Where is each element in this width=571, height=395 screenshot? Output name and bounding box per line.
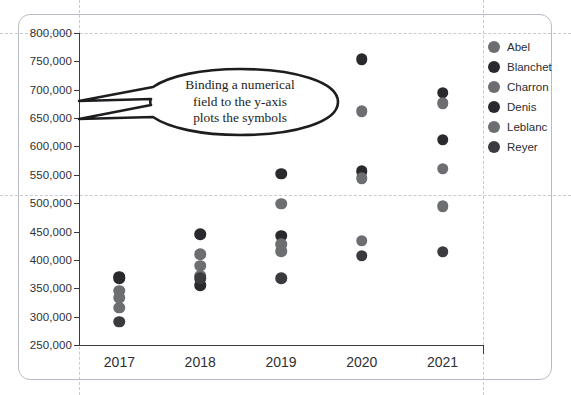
legend-swatch-icon <box>488 141 500 153</box>
callout-text: Binding a numerical field to the y-axis … <box>139 66 341 138</box>
x-axis-tick-label: 2020 <box>346 354 377 370</box>
legend-swatch-icon <box>488 121 500 133</box>
callout-line-3: plots the symbols <box>193 110 287 127</box>
y-axis-tick-label: 550,000 <box>30 169 79 181</box>
data-point[interactable] <box>194 229 206 241</box>
x-axis-tick-label: 2018 <box>185 354 216 370</box>
y-axis-tick-label: 700,000 <box>30 84 79 96</box>
legend-swatch-icon <box>488 101 500 113</box>
legend-swatch-icon <box>488 41 500 53</box>
legend-item-blanchet[interactable]: Blanchet <box>488 60 552 73</box>
legend-item-label: Charron <box>507 81 549 93</box>
data-point[interactable] <box>275 238 287 250</box>
y-axis-tick-label: 600,000 <box>30 140 79 152</box>
legend-item-label: Denis <box>507 101 536 113</box>
data-point[interactable] <box>194 248 206 260</box>
y-axis-tick-label: 250,000 <box>30 339 79 351</box>
legend-item-label: Blanchet <box>507 61 552 73</box>
chart-legend: AbelBlanchetCharronDenisLeblancReyer <box>488 40 552 153</box>
legend-item-abel[interactable]: Abel <box>488 40 552 53</box>
data-point[interactable] <box>356 106 368 118</box>
y-axis-tick-label: 650,000 <box>30 112 79 124</box>
callout-line-2: field to the y-axis <box>193 94 287 111</box>
x-axis-tick-label: 2021 <box>427 354 458 370</box>
x-axis-end-cap <box>483 345 484 354</box>
data-point[interactable] <box>356 235 368 247</box>
callout-line-1: Binding a numerical <box>185 77 294 94</box>
legend-swatch-icon <box>488 61 500 73</box>
data-point[interactable] <box>356 53 368 65</box>
y-axis-tick-label: 450,000 <box>30 226 79 238</box>
legend-item-denis[interactable]: Denis <box>488 100 552 113</box>
legend-item-label: Abel <box>507 41 530 53</box>
x-axis-line <box>79 345 483 346</box>
data-point[interactable] <box>356 250 368 262</box>
data-point[interactable] <box>437 98 449 110</box>
data-point[interactable] <box>114 316 126 328</box>
y-axis-line <box>79 33 80 345</box>
legend-item-reyer[interactable]: Reyer <box>488 140 552 153</box>
legend-item-label: Leblanc <box>507 121 547 133</box>
data-point[interactable] <box>114 271 126 283</box>
data-point[interactable] <box>437 200 449 212</box>
data-point[interactable] <box>437 246 449 258</box>
y-axis-tick-label: 750,000 <box>30 55 79 67</box>
data-point[interactable] <box>114 302 126 314</box>
legend-item-leblanc[interactable]: Leblanc <box>488 120 552 133</box>
callout-bubble: Binding a numerical field to the y-axis … <box>139 66 341 138</box>
data-point[interactable] <box>275 272 287 284</box>
x-axis-tick-label: 2017 <box>104 354 135 370</box>
data-point[interactable] <box>437 163 449 175</box>
data-point[interactable] <box>275 198 287 210</box>
y-axis-tick-label: 300,000 <box>30 311 79 323</box>
data-point[interactable] <box>194 272 206 284</box>
y-axis-tick-label: 500,000 <box>30 197 79 209</box>
y-axis-tick-label: 350,000 <box>30 282 79 294</box>
data-point[interactable] <box>437 134 449 146</box>
legend-item-label: Reyer <box>507 141 538 153</box>
data-point[interactable] <box>275 168 287 180</box>
y-axis-tick-label: 400,000 <box>30 254 79 266</box>
y-axis-tick-label: 800,000 <box>30 27 79 39</box>
legend-item-charron[interactable]: Charron <box>488 80 552 93</box>
x-axis-tick-label: 2019 <box>265 354 296 370</box>
data-point[interactable] <box>437 87 449 99</box>
legend-swatch-icon <box>488 81 500 93</box>
data-point[interactable] <box>356 172 368 184</box>
